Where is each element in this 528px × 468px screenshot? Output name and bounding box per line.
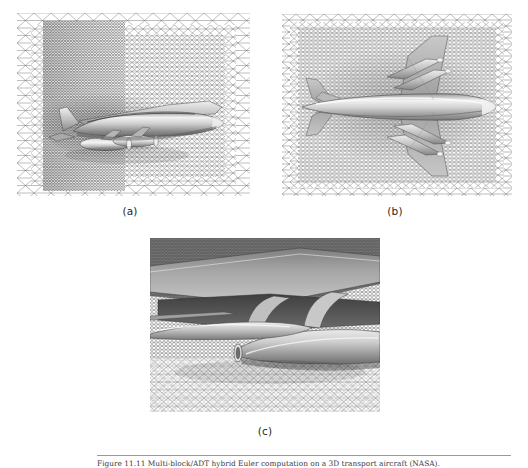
subfigure-c-image — [150, 238, 380, 412]
subfigure-a-label: (a) — [110, 205, 150, 217]
figure-page: (a) — [0, 0, 528, 468]
caption-divider — [97, 455, 511, 456]
subfigure-a-image — [17, 13, 250, 196]
subfigure-c-label: (c) — [245, 425, 285, 437]
subfigure-b-image — [282, 14, 512, 196]
subfigure-b-label: (b) — [375, 205, 415, 217]
figure-caption: Figure 11.11 Multi-block/ADT hybrid Eule… — [97, 459, 513, 468]
